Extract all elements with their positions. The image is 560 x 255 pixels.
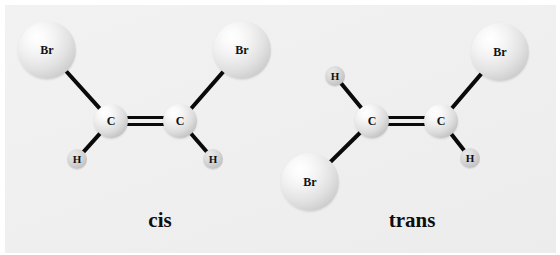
atom-label: H (331, 71, 340, 82)
atom-c-cis-3: C (163, 104, 197, 138)
atom-br-cis-1: Br (213, 21, 271, 79)
atom-label: Br (40, 44, 54, 56)
atom-label: C (107, 115, 116, 127)
atom-h-trans-5: H (460, 148, 480, 168)
caption-trans: trans (352, 208, 472, 233)
atom-br-cis-0: Br (18, 21, 76, 79)
atom-label: H (209, 154, 218, 165)
atom-c-trans-2: C (355, 104, 389, 138)
atom-label: C (368, 115, 377, 127)
atom-label: H (466, 153, 475, 164)
diagram-panel: BrBrCCHHHBrCCBrH cistrans (5, 5, 556, 253)
atom-br-trans-4: Br (471, 23, 529, 81)
caption-cis: cis (100, 208, 220, 233)
atom-c-trans-3: C (424, 104, 458, 138)
atom-label: Br (235, 44, 249, 56)
atom-br-trans-1: Br (281, 153, 339, 211)
atom-h-trans-0: H (325, 66, 345, 86)
atom-label: H (73, 154, 82, 165)
atom-label: Br (303, 176, 317, 188)
atom-label: Br (493, 46, 507, 58)
atom-h-cis-5: H (203, 149, 223, 169)
atom-label: C (176, 115, 185, 127)
molecular-diagram-figure: BrBrCCHHHBrCCBrH cistrans (0, 0, 560, 255)
atom-c-cis-2: C (94, 104, 128, 138)
atom-h-cis-4: H (67, 149, 87, 169)
atom-label: C (437, 115, 446, 127)
